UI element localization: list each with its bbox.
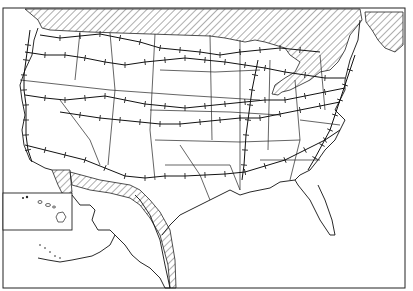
railroad-map [0,0,413,291]
mexico-border-strip [70,172,176,288]
mexico-region [52,170,72,195]
hawaii-inset [3,193,72,230]
map-canvas [0,0,413,291]
aleutian-islands [39,244,61,259]
us-gulf-coast [162,180,295,235]
railroad-southern [25,130,340,178]
canada-maritime [365,12,403,52]
canada-region [25,9,362,95]
railroad-mississippi [242,60,258,180]
